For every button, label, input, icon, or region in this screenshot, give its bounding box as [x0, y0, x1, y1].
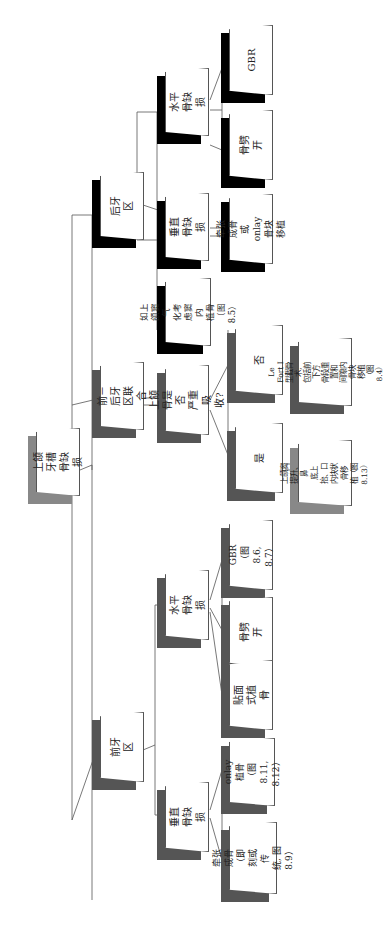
node-maxilla-resorption-question: 上颌骨是否 严重吸收?	[165, 365, 209, 435]
node-label: 上颌牙槽 骨缺损	[32, 451, 84, 473]
node-anterior-vertical-defect: 垂直骨缺损	[165, 782, 209, 852]
node-label: 前牙区	[109, 736, 135, 758]
node-posterior-vertical-option: 牵张成骨 或 onlay 骨块移植	[229, 194, 273, 264]
node-posterior-horizontal-defect: 水平骨缺损	[165, 68, 209, 136]
node-label: GBR	[245, 49, 258, 72]
node-label: 垂直骨缺损	[168, 806, 207, 828]
node-posterior-vertical-defect: 垂直骨缺损	[165, 193, 209, 261]
node-label: 后牙区	[109, 195, 135, 217]
node-label: Le Fort I 型截骨术, 包括前下方 骨段重置和 间隙内骨块 移植（图8.…	[267, 359, 384, 386]
node-label: 上颌骨是否 严重吸收?	[148, 389, 226, 411]
node-anterior-onlay-graft: onlay 植骨 （图8.11, 8.12）	[229, 738, 275, 806]
node-label: 骨劈开	[238, 134, 264, 156]
node-label: 如上颌窦气 化考虑窦内 植骨（图8.5）	[139, 301, 238, 324]
node-label: 上颌窦 提升、鼻 底上抬、口 内块状骨移 植（图8.13）	[280, 460, 370, 487]
node-anterior-gbr: GBR（图 8.6, 8.7）	[229, 520, 273, 590]
node-label: 骨劈开	[238, 621, 264, 643]
node-label: 前－后牙 区联合	[96, 385, 148, 407]
node-label: 水平骨缺损	[168, 594, 207, 616]
node-label: 垂直骨缺损	[168, 216, 207, 238]
node-posterior-region: 后牙区	[100, 172, 144, 240]
decision-tree-diagram: 上颌牙槽 骨缺损 后牙区 水平骨缺损 GBR 骨劈开 垂直骨缺损 牵张成骨 或 …	[0, 0, 388, 934]
node-answer-yes: 是	[235, 423, 283, 493]
node-label: GBR（图 8.6, 8.7）	[227, 543, 275, 566]
node-label: 是	[253, 453, 266, 463]
node-root: 上颌牙槽 骨缺损	[36, 428, 80, 496]
node-anterior-horizontal-defect: 水平骨缺损	[165, 570, 209, 640]
node-label: 水平骨缺损	[168, 91, 207, 113]
node-posterior-gbr: GBR	[229, 25, 273, 95]
node-label: 否	[253, 355, 266, 365]
node-posterior-bone-split: 骨劈开	[229, 110, 273, 180]
node-anterior-distraction: 牵张成骨 （即刻或传 统, 图8.9）	[229, 822, 277, 894]
node-sinus-lift-option: 上颌窦 提升、鼻 底上抬、口 内块状骨移 植（图8.13）	[298, 440, 352, 506]
node-anterior-veneer-graft: 贴面式植骨	[229, 660, 273, 730]
node-label: 贴面式植骨	[232, 684, 271, 706]
node-label: 牵张成骨 （即刻或传 统, 图8.9）	[211, 846, 295, 870]
node-posterior-sinus-graft: 如上颌窦气 化考虑窦内 植骨（图8.5）	[165, 278, 211, 346]
node-combined-region: 前－后牙 区联合	[100, 362, 144, 430]
node-label: 牵张成骨 或 onlay 骨块移植	[215, 217, 287, 242]
node-label: onlay 植骨 （图8.11, 8.12）	[222, 757, 282, 786]
node-le-fort-option: Le Fort I 型截骨术, 包括前下方 骨段重置和 间隙内骨块 移植（图8.…	[298, 338, 352, 406]
node-anterior-region: 前牙区	[100, 712, 144, 782]
node-anterior-bone-split: 骨劈开	[229, 597, 273, 667]
